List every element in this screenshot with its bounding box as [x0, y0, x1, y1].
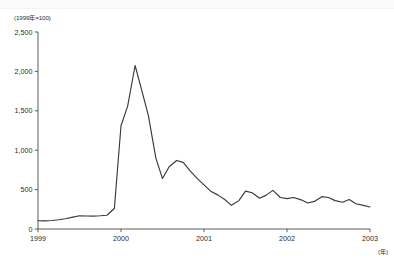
y-tick-group: 05001,0001,5002,0002,500 — [15, 28, 39, 234]
x-tick-label: 2003 — [362, 234, 378, 243]
chart-figure: (1999年=100) 05001,0001,5002,0002,500 199… — [0, 0, 394, 265]
x-tick-label: 1999 — [30, 234, 46, 243]
x-tick-group: 19992000200120022003 — [30, 229, 378, 243]
y-tick-label: 2,500 — [15, 28, 33, 37]
x-axis-unit-label: (年) — [378, 247, 388, 256]
x-tick-label: 2002 — [279, 234, 295, 243]
y-tick-label: 0 — [29, 225, 33, 234]
y-tick-label: 1,000 — [15, 146, 33, 155]
x-tick-label: 2000 — [113, 234, 129, 243]
y-tick-label: 500 — [21, 185, 33, 194]
x-tick-label: 2001 — [196, 234, 212, 243]
plot-area: 05001,0001,5002,0002,500 199920002001200… — [0, 0, 394, 265]
y-tick-label: 1,500 — [15, 106, 33, 115]
y-tick-label: 2,000 — [15, 67, 33, 76]
data-series-line — [38, 65, 370, 220]
